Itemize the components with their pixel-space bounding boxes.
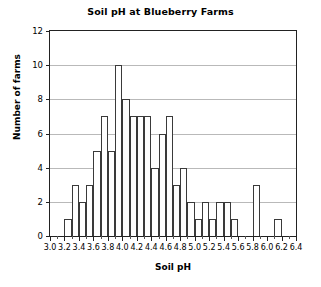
x-axis-tick-label: 5.8 (246, 243, 259, 252)
x-axis-tick-label: 3.2 (58, 243, 71, 252)
histogram-bar (115, 65, 122, 236)
y-axis-tick (46, 99, 50, 100)
y-axis-tick (46, 65, 50, 66)
y-axis-tick (46, 202, 50, 203)
y-axis-tick-label: 10 (32, 60, 43, 70)
x-axis-tick-minor (216, 236, 217, 239)
x-axis-tick-minor (187, 236, 188, 239)
x-axis-tick-label: 3.0 (44, 243, 57, 252)
x-axis-tick-minor (202, 236, 203, 239)
x-axis-tick-minor (173, 236, 174, 239)
y-axis-tick-label: 0 (38, 231, 43, 241)
x-axis-tick-minor (101, 236, 102, 239)
x-axis-tick-major (267, 236, 268, 241)
x-axis-tick-major (93, 236, 94, 241)
x-axis-title: Soil pH (49, 262, 297, 272)
bars-layer (50, 31, 296, 236)
x-axis-tick-minor (245, 236, 246, 239)
histogram-bar (216, 202, 223, 236)
x-axis-tick-label: 6.4 (290, 243, 303, 252)
x-axis-tick-major (209, 236, 210, 241)
x-axis-tick-major (238, 236, 239, 241)
x-axis-tick-major (122, 236, 123, 241)
chart-title: Soil pH at Blueberry Farms (0, 6, 321, 17)
histogram-bar (108, 151, 115, 236)
histogram-bar (274, 219, 281, 236)
x-axis-tick-label: 3.4 (73, 243, 86, 252)
histogram-bar (144, 116, 151, 236)
histogram-bar (187, 202, 194, 236)
y-axis-title: Number of farms (12, 32, 22, 162)
x-axis-tick-label: 6.0 (261, 243, 274, 252)
x-axis-tick-major (137, 236, 138, 241)
histogram-bar (137, 116, 144, 236)
histogram-bar (122, 99, 129, 236)
x-axis-tick-label: 3.6 (87, 243, 100, 252)
x-axis-tick-minor (289, 236, 290, 239)
y-axis-tick (46, 31, 50, 32)
x-axis-tick-label: 3.8 (102, 243, 115, 252)
x-axis-tick-label: 4.6 (159, 243, 172, 252)
histogram-bar (224, 202, 231, 236)
histogram-bar (151, 168, 158, 236)
histogram-bar (159, 134, 166, 237)
x-axis-tick-major (224, 236, 225, 241)
x-axis-tick-minor (144, 236, 145, 239)
x-axis-tick-label: 5.0 (188, 243, 201, 252)
x-axis-tick-minor (274, 236, 275, 239)
histogram-bar (93, 151, 100, 236)
x-axis-tick-label: 4.0 (116, 243, 129, 252)
y-axis-tick-label: 12 (32, 26, 43, 36)
histogram-bar (209, 219, 216, 236)
y-axis-tick-label: 4 (38, 163, 43, 173)
y-axis-tick-label: 6 (38, 129, 43, 139)
x-axis-tick-label: 5.4 (217, 243, 230, 252)
histogram-bar (72, 185, 79, 236)
x-axis-tick-label: 6.2 (275, 243, 288, 252)
x-axis-tick-major (195, 236, 196, 241)
x-axis-tick-label: 4.2 (130, 243, 143, 252)
histogram-chart: Soil pH at Blueberry Farms Number of far… (0, 0, 321, 287)
x-axis-tick-major (282, 236, 283, 241)
y-axis-tick-label: 2 (38, 197, 43, 207)
x-axis-tick-major (151, 236, 152, 241)
x-axis-tick-minor (159, 236, 160, 239)
histogram-bar (195, 219, 202, 236)
x-axis-tick-major (166, 236, 167, 241)
histogram-bar (64, 219, 71, 236)
histogram-bar (130, 116, 137, 236)
x-axis-tick-major (108, 236, 109, 241)
histogram-bar (202, 202, 209, 236)
x-axis-tick-minor (260, 236, 261, 239)
histogram-bar (166, 116, 173, 236)
y-axis-tick-label: 8 (38, 94, 43, 104)
histogram-bar (231, 219, 238, 236)
x-axis-tick-minor (86, 236, 87, 239)
x-axis-tick-major (50, 236, 51, 241)
histogram-bar (180, 168, 187, 236)
x-axis-tick-minor (231, 236, 232, 239)
x-axis-tick-label: 4.8 (174, 243, 187, 252)
x-axis-tick-major (79, 236, 80, 241)
y-axis-tick (46, 168, 50, 169)
x-axis-tick-major (180, 236, 181, 241)
y-axis-tick (46, 134, 50, 135)
histogram-bar (173, 185, 180, 236)
x-axis-tick-minor (115, 236, 116, 239)
plot-area: 0246810123.03.23.43.63.84.04.24.44.64.85… (49, 30, 297, 237)
x-axis-tick-major (64, 236, 65, 241)
x-axis-tick-minor (57, 236, 58, 239)
histogram-bar (101, 116, 108, 236)
x-axis-tick-label: 5.6 (232, 243, 245, 252)
x-axis-tick-minor (72, 236, 73, 239)
histogram-bar (79, 202, 86, 236)
x-axis-tick-major (253, 236, 254, 241)
x-axis-tick-label: 4.4 (145, 243, 158, 252)
x-axis-tick-label: 5.2 (203, 243, 216, 252)
histogram-bar (253, 185, 260, 236)
x-axis-tick-major (296, 236, 297, 241)
x-axis-tick-minor (130, 236, 131, 239)
histogram-bar (86, 185, 93, 236)
